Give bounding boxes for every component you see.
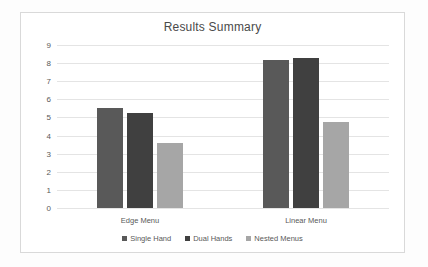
bar: [323, 122, 349, 208]
gridline: [57, 99, 389, 100]
chart-frame: Results Summary 0123456789 Edge MenuLine…: [20, 12, 405, 253]
y-axis-tick-label: 8: [47, 59, 51, 68]
y-axis-tick-label: 6: [47, 95, 51, 104]
bar: [127, 113, 153, 208]
y-axis-tick-label: 0: [47, 204, 51, 213]
x-axis-category-label: Edge Menu: [121, 216, 159, 225]
legend-swatch-icon: [185, 236, 190, 241]
chart-page: Results Summary 0123456789 Edge MenuLine…: [0, 0, 428, 267]
bar: [263, 60, 289, 209]
y-axis-tick-label: 9: [47, 41, 51, 50]
y-axis-tick-label: 1: [47, 185, 51, 194]
bar: [157, 143, 183, 208]
legend-item[interactable]: Dual Hands: [185, 234, 232, 243]
y-axis-tick-label: 5: [47, 113, 51, 122]
legend-label: Dual Hands: [193, 234, 232, 243]
y-axis-tick-label: 4: [47, 131, 51, 140]
bar: [293, 58, 319, 208]
legend-label: Single Hand: [130, 234, 171, 243]
gridline: [57, 208, 389, 209]
chart-title: Results Summary: [21, 20, 404, 34]
legend-swatch-icon: [122, 236, 127, 241]
legend-label: Nested Menus: [254, 234, 302, 243]
plot-area: 0123456789 Edge MenuLinear Menu: [57, 45, 389, 208]
y-axis-tick-label: 2: [47, 167, 51, 176]
chart-legend: Single HandDual HandsNested Menus: [21, 234, 404, 243]
y-axis-tick-label: 7: [47, 77, 51, 86]
gridline: [57, 81, 389, 82]
y-axis-tick-label: 3: [47, 149, 51, 158]
gridline: [57, 63, 389, 64]
gridline: [57, 45, 389, 46]
legend-item[interactable]: Nested Menus: [246, 234, 302, 243]
bar: [97, 108, 123, 208]
legend-swatch-icon: [246, 236, 251, 241]
x-axis-category-label: Linear Menu: [285, 216, 327, 225]
legend-item[interactable]: Single Hand: [122, 234, 171, 243]
